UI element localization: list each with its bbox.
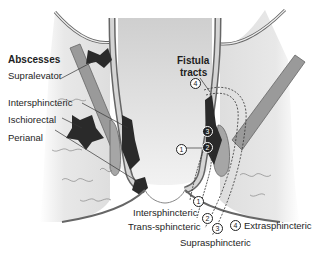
label-intersphincteric-fistula: Intersphincteric	[133, 208, 197, 218]
label-intersphincteric-abscess: Intersphincteric	[8, 98, 72, 108]
abscesses-heading: Abscesses	[8, 55, 60, 65]
marker-3: 3	[212, 223, 223, 234]
marker-1-inner: 1	[176, 144, 187, 155]
marker-2-inner: 2	[202, 142, 213, 153]
fistula-heading-line2: tracts	[180, 68, 207, 78]
fistula-heading-line1: Fistula	[177, 56, 209, 66]
marker-2: 2	[202, 213, 213, 224]
marker-3-inner: 3	[202, 126, 213, 137]
label-suprasphincteric: Suprasphincteric	[180, 238, 251, 248]
label-perianal: Perianal	[8, 133, 43, 143]
anorectal-diagram: Abscesses Supralevator Intersphincteric …	[0, 0, 317, 253]
label-trans-sphincteric: Trans-sphincteric	[128, 222, 201, 232]
marker-4: 4	[230, 220, 241, 231]
label-ischiorectal: Ischiorectal	[8, 115, 56, 125]
label-extrasphincteric: Extrasphincteric	[244, 221, 312, 231]
marker-1: 1	[193, 196, 204, 207]
label-supralevator: Supralevator	[8, 71, 62, 81]
marker-4-top: 4	[190, 78, 201, 89]
